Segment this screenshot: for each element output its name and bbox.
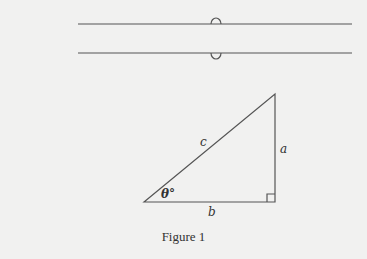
lower-line-bump <box>211 53 221 59</box>
right-angle-marker <box>267 194 275 202</box>
label-theta: θ° <box>161 187 175 201</box>
upper-line-bump <box>211 18 221 24</box>
right-triangle <box>144 94 275 202</box>
figure-caption: Figure 1 <box>0 229 367 245</box>
label-c: c <box>200 135 207 149</box>
label-a: a <box>280 142 287 156</box>
label-b: b <box>208 205 216 219</box>
figure-canvas: c a b θ° <box>0 0 367 259</box>
